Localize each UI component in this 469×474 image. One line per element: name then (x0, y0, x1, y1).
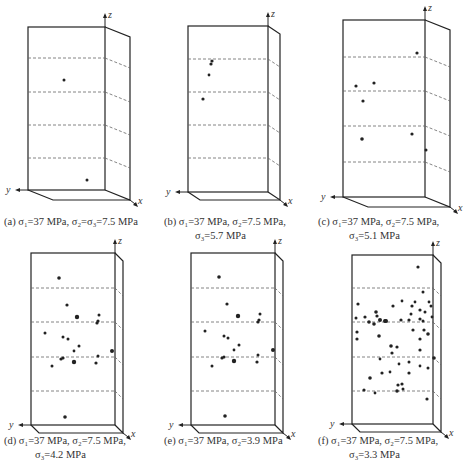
crack-point (410, 132, 413, 135)
crack-point (418, 348, 421, 351)
crack-point (367, 320, 371, 324)
crack-point (97, 355, 100, 358)
crack-point (415, 51, 418, 54)
crack-point (355, 330, 358, 333)
crack-point (424, 311, 427, 314)
box-side-face (105, 27, 130, 200)
x-axis (450, 207, 455, 211)
box-bottom-face (188, 192, 280, 200)
z-axis-label: z (117, 235, 122, 246)
layer-dash-line-side (115, 357, 123, 365)
crack-point (238, 344, 241, 347)
crack-point (380, 371, 383, 374)
crack-point (432, 356, 436, 360)
crack-point (418, 308, 421, 311)
crack-point (422, 320, 425, 323)
crack-point (427, 367, 430, 370)
z-arrow-icon (103, 13, 107, 18)
x-axis-label: x (287, 195, 293, 206)
crack-point (400, 382, 403, 385)
caption-f-line2: σ₃=3.3 MPa (349, 448, 400, 461)
crack-point (426, 332, 430, 336)
z-arrow-icon (273, 239, 277, 244)
layer-dash-line-side (115, 288, 123, 296)
crack-point (44, 332, 47, 335)
y-axis-label: y (329, 418, 335, 429)
crack-point (431, 316, 434, 319)
y-axis-label: y (168, 419, 174, 430)
z-axis-label: z (435, 237, 440, 248)
caption-b-line1: (b) σ₁=37 MPa, σ₂=7.5 MPa, (164, 215, 286, 228)
layer-dash-line-side (425, 91, 450, 101)
box-front-face (28, 27, 105, 190)
crack-point (418, 317, 421, 320)
crack-point (378, 318, 382, 322)
panel-a: zyx (5, 9, 143, 207)
layer-dash-line-side (425, 57, 450, 67)
crack-point (398, 363, 401, 366)
crack-point (389, 344, 393, 348)
crack-point (422, 291, 425, 294)
panel-b: zyx (165, 8, 293, 207)
caption-a-line1: (a) σ₁=37 MPa, σ₂=σ₃=7.5 MPa (4, 215, 138, 228)
layer-dash-line-side (115, 391, 123, 399)
crack-point (372, 81, 375, 84)
crack-point (395, 345, 398, 348)
crack-point (63, 415, 67, 419)
crack-point (362, 388, 365, 391)
panel-e: zyx (168, 235, 296, 440)
layer-dash-line-side (275, 288, 283, 296)
crack-point (256, 320, 259, 323)
crack-point (414, 301, 417, 304)
z-arrow-icon (113, 239, 117, 244)
crack-point (356, 302, 359, 305)
crack-point (377, 334, 381, 338)
box-side-face (425, 20, 450, 207)
box-bottom-face (191, 425, 283, 433)
crack-point (389, 371, 392, 374)
crack-point (211, 365, 214, 368)
box-side-face (275, 253, 283, 433)
crack-point (407, 318, 410, 321)
box-bottom-face (352, 424, 441, 432)
caption-e-line1: (e) σ₁=37 MPa, σ₂=3.9 MPa (164, 434, 283, 447)
z-arrow-icon (423, 6, 427, 11)
crack-point (374, 310, 378, 314)
layer-dash-line-side (433, 288, 441, 296)
crack-point (355, 337, 358, 340)
crack-point (259, 313, 262, 316)
x-axis (283, 433, 288, 437)
caption-d-line1: (d) σ₁=37 MPa, σ₂=7.5 MPa, (4, 434, 126, 447)
layer-dash-line-side (275, 391, 283, 399)
crack-point (430, 305, 433, 308)
layer-dash-line-side (105, 92, 130, 102)
crack-point (361, 99, 364, 102)
crack-point (384, 319, 388, 323)
crack-point (110, 349, 114, 353)
crack-point (236, 314, 240, 318)
crack-point (94, 361, 97, 364)
crack-point (255, 360, 258, 363)
crack-point (360, 137, 364, 141)
crack-point (257, 354, 260, 357)
crack-point (98, 314, 101, 317)
x-axis (130, 200, 135, 204)
crack-point (67, 338, 70, 341)
layer-dash-line-side (433, 391, 441, 399)
crack-point (210, 59, 213, 62)
crack-point (232, 359, 236, 363)
x-axis (441, 432, 446, 436)
layer-dash-line-side (275, 322, 283, 330)
crack-point (62, 336, 65, 339)
box-front-face (343, 20, 425, 197)
z-axis-label: z (270, 8, 275, 19)
y-axis-label: y (8, 419, 14, 430)
crack-point (225, 302, 228, 305)
crack-point (425, 397, 428, 400)
box-front-face (191, 253, 275, 425)
crack-point (391, 304, 394, 307)
crack-point (375, 314, 378, 317)
y-arrow-icon (175, 190, 180, 194)
layer-dash-line-side (268, 125, 280, 133)
x-axis (280, 200, 285, 204)
